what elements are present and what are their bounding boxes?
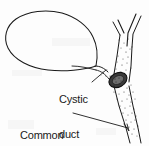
anatomical-figure: Cystic duct Common bile duct [0, 0, 149, 146]
hepatic-duct-bifurcation [113, 14, 141, 82]
label-cystic-duct-line1: Cystic [59, 94, 88, 106]
cystic-duct-leader-line [92, 70, 106, 82]
common-bile-duct [114, 86, 141, 143]
label-common-bile-duct-line1: Common [20, 130, 63, 142]
label-common-bile-duct: Common bile duct [20, 107, 63, 146]
impacted-stone [106, 69, 129, 90]
